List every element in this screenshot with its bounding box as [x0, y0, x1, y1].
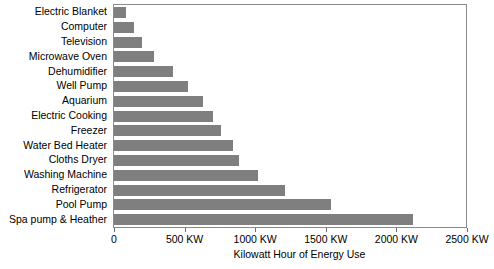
- category-label: Well Pump: [0, 80, 107, 91]
- bar: [114, 96, 203, 107]
- bar: [114, 170, 258, 181]
- bar: [114, 185, 285, 196]
- category-label: Freezer: [0, 125, 107, 136]
- bar: [114, 111, 213, 122]
- bar: [114, 140, 233, 151]
- category-label: Television: [0, 36, 107, 47]
- tick-mark: [114, 228, 115, 232]
- tick-label: 1500 KW: [304, 233, 347, 245]
- x-axis-title-text: Kilowatt Hour of Energy Use: [129, 248, 366, 260]
- category-label: Microwave Oven: [0, 51, 107, 62]
- tick-mark: [185, 228, 186, 232]
- tick-label: 500 KW: [166, 233, 203, 245]
- tick-label: 2000 KW: [375, 233, 418, 245]
- category-label: Refrigerator: [0, 184, 107, 195]
- category-label: Water Bed Heater: [0, 140, 107, 151]
- bar: [114, 155, 239, 166]
- category-axis-labels: Electric BlanketComputerTelevisionMicrow…: [0, 4, 110, 228]
- tick-mark: [326, 228, 327, 232]
- bar: [114, 214, 413, 225]
- bar: [114, 51, 154, 62]
- bar: [114, 81, 188, 92]
- category-label: Electric Cooking: [0, 110, 107, 121]
- bar-chart: Electric BlanketComputerTelevisionMicrow…: [0, 0, 494, 269]
- tick-label: 1000 KW: [234, 233, 277, 245]
- category-label: Dehumidifier: [0, 66, 107, 77]
- x-axis-title: Kilowatt Hour of Energy Use: [0, 248, 494, 260]
- bars-container: [114, 5, 466, 227]
- tick-label: 2500 KW: [445, 233, 488, 245]
- tick-mark: [396, 228, 397, 232]
- bar: [114, 7, 126, 18]
- bar: [114, 22, 134, 33]
- tick-mark: [467, 228, 468, 232]
- tick-mark: [255, 228, 256, 232]
- bar: [114, 66, 173, 77]
- category-label: Cloths Dryer: [0, 154, 107, 165]
- tick-label: 0: [111, 233, 117, 245]
- bar: [114, 125, 221, 136]
- category-label: Washing Machine: [0, 169, 107, 180]
- category-label: Electric Blanket: [0, 6, 107, 17]
- category-label: Aquarium: [0, 95, 107, 106]
- bar: [114, 199, 331, 210]
- category-label: Computer: [0, 21, 107, 32]
- plot-area: [113, 4, 467, 228]
- category-label: Spa pump & Heather: [0, 214, 107, 225]
- category-label: Pool Pump: [0, 199, 107, 210]
- bar: [114, 37, 142, 48]
